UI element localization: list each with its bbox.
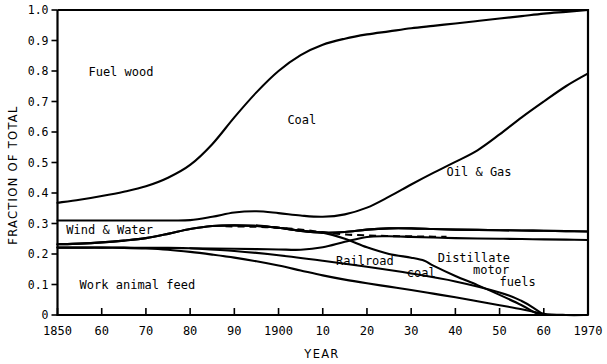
x-tick-label: 50 (492, 324, 506, 338)
x-tick-label: 1900 (264, 324, 293, 338)
series-label-oil-and-gas: Oil & Gas (447, 165, 512, 179)
series-label-fuels: fuels (500, 275, 536, 289)
series-label-wind-and-water: Wind & Water (66, 223, 153, 237)
y-tick-label: 1.0 (28, 3, 49, 17)
x-tick-label: 20 (360, 324, 374, 338)
y-tick-label: 0.9 (28, 34, 49, 48)
series-label-coal: Coal (287, 113, 316, 127)
y-tick-label: 0.1 (28, 278, 49, 292)
x-tick-label: 90 (227, 324, 241, 338)
x-axis-title: YEAR (303, 347, 339, 361)
y-tick-label: 0.7 (28, 95, 49, 109)
x-tick-label: 60 (94, 324, 108, 338)
x-axis-ticks: 18506070809019001020304050601970 (43, 308, 602, 338)
curve-top-of-oil-and-gas (58, 73, 589, 220)
chart-canvas: 00.10.20.30.40.50.60.70.80.91.0 18506070… (0, 0, 607, 364)
y-tick-label: 0.3 (28, 217, 49, 231)
y-tick-label: 0.4 (28, 186, 49, 200)
y-axis-ticks: 00.10.20.30.40.50.60.70.80.91.0 (28, 3, 58, 322)
x-tick-label: 60 (537, 324, 551, 338)
series-label-railroad-coal: coal (407, 266, 436, 280)
y-tick-label: 0.2 (28, 247, 49, 261)
series-label-work-animal-feed: Work animal feed (80, 278, 196, 292)
y-axis-title: FRACTION OF TOTAL (6, 105, 20, 244)
x-tick-label: 1970 (574, 324, 603, 338)
x-tick-label: 70 (139, 324, 153, 338)
x-tick-label: 80 (183, 324, 197, 338)
x-tick-label: 30 (404, 324, 418, 338)
x-tick-label: 1850 (43, 324, 72, 338)
x-tick-label: 40 (448, 324, 462, 338)
series-label-railroad: Railroad (336, 254, 394, 268)
y-tick-label: 0.6 (28, 125, 49, 139)
y-tick-label: 0.8 (28, 64, 49, 78)
series-label-fuel-wood: Fuel wood (88, 65, 153, 79)
x-tick-label: 10 (316, 324, 330, 338)
y-tick-label: 0.5 (28, 156, 49, 170)
energy-fraction-chart: 00.10.20.30.40.50.60.70.80.91.0 18506070… (0, 0, 607, 364)
y-tick-label: 0 (42, 308, 49, 322)
